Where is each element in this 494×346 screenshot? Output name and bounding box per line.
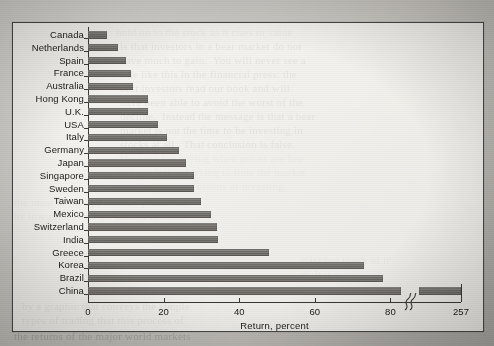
category-label: Hong Kong [13,93,84,104]
x-tick [461,298,462,302]
y-tick [84,140,88,141]
category-label: Japan [13,157,84,168]
bar-spain [88,57,126,64]
y-tick [84,51,88,52]
bar-australia [88,83,133,90]
y-tick [84,153,88,154]
y-tick [84,76,88,77]
category-label: Switzerland [13,221,84,232]
y-tick [84,89,88,90]
category-label: USA [13,119,84,130]
bar-hong-kong [88,95,148,102]
category-label: Greece [13,247,84,258]
category-label: Taiwan [13,195,84,206]
bar-korea [88,262,364,269]
x-tick [88,298,89,302]
bar-singapore [88,172,194,179]
y-tick [84,256,88,257]
bar-brazil [88,275,383,282]
category-label: Korea [13,259,84,270]
category-label: China [13,285,84,296]
chart-plot-area: Return, percent CanadaNetherlandsSpainFr… [13,23,483,331]
y-tick [84,64,88,65]
category-label: U.K. [13,106,84,117]
category-label: Germany [13,144,84,155]
x-tick-label: 20 [144,306,184,317]
x-tick [315,298,316,302]
bar-india [88,236,218,243]
category-label: Singapore [13,170,84,181]
chart-frame: Return, percent CanadaNetherlandsSpainFr… [12,22,484,332]
category-label: Brazil [13,272,84,283]
x-axis-title: Return, percent [68,320,481,331]
category-label: France [13,67,84,78]
category-label: India [13,234,84,245]
x-tick [390,298,391,302]
y-tick [84,128,88,129]
y-tick [84,243,88,244]
x-tick [164,298,165,302]
bar-sweden [88,185,194,192]
x-tick-label: 80 [370,306,410,317]
y-tick [84,204,88,205]
bar-germany [88,147,179,154]
y-tick [84,217,88,218]
y-tick [84,115,88,116]
y-tick [84,268,88,269]
bar-taiwan [88,198,201,205]
x-tick-label: 0 [68,306,108,317]
x-tick-label: 40 [219,306,259,317]
bar-canada [88,31,107,38]
category-label: Sweden [13,183,84,194]
bar-greece [88,249,269,256]
scanned-page: hold on to the stock as it rises in valu… [0,0,494,346]
x-tick-label: 257 [441,306,481,317]
y-tick [84,192,88,193]
x-tick [239,298,240,302]
bar-netherlands [88,44,118,51]
category-label: Canada [13,29,84,40]
bar-china-continued [419,287,461,294]
category-label: Netherlands [13,42,84,53]
x-tick-label: 60 [295,306,335,317]
y-tick [84,166,88,167]
bar-japan [88,159,186,166]
bar-usa [88,121,158,128]
category-label: Spain [13,55,84,66]
bar-u-k- [88,108,148,115]
y-tick [84,281,88,282]
bar-china [88,287,401,294]
category-label: Mexico [13,208,84,219]
y-tick [84,294,88,295]
category-label: Australia [13,80,84,91]
bar-france [88,70,131,77]
bar-mexico [88,211,211,218]
y-tick [84,38,88,39]
y-tick [84,102,88,103]
bar-italy [88,134,167,141]
y-tick [84,230,88,231]
y-tick [84,179,88,180]
bar-switzerland [88,223,217,230]
category-label: Italy [13,131,84,142]
